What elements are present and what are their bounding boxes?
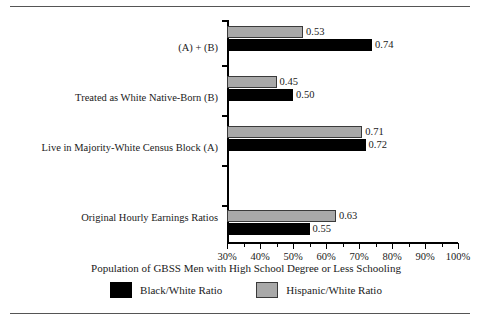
x-axis-tick-major: [392, 243, 393, 249]
bar-value-hispanic-original-ratios: 0.63: [339, 210, 357, 222]
x-axis-tick-major: [260, 243, 261, 249]
y-axis-tick: [222, 115, 227, 117]
figure-container: (A) + (B) Treated as White Native-Born (…: [0, 0, 492, 324]
top-horizontal-rule: [10, 6, 470, 7]
bar-value-black-treated-white: 0.50: [296, 89, 314, 101]
bar-hispanic-original-ratios: [227, 210, 336, 222]
legend-swatch-gray-icon: [256, 282, 278, 298]
x-axis-tick-major: [425, 243, 426, 249]
y-axis-tick: [222, 205, 227, 207]
x-axis-label-50: 50%: [283, 251, 302, 262]
x-axis-title: Population of GBSS Men with High School …: [0, 262, 492, 274]
x-axis-label-60: 60%: [316, 251, 335, 262]
bar-value-black-a-plus-b: 0.74: [375, 39, 393, 51]
y-axis-tick: [222, 20, 227, 22]
x-axis-label-30: 30%: [217, 251, 236, 262]
x-axis-tick-major: [227, 243, 228, 249]
bar-black-a-plus-b: [227, 39, 372, 51]
bar-black-majority-white: [227, 139, 366, 151]
x-axis-tick-major: [359, 243, 360, 249]
bar-value-hispanic-majority-white: 0.71: [365, 126, 383, 138]
legend-item-hispanic-white-ratio: Hispanic/White Ratio: [256, 282, 382, 298]
x-axis-label-80: 80%: [382, 251, 401, 262]
x-axis-label-90: 90%: [415, 251, 434, 262]
x-axis-tick-major: [293, 243, 294, 249]
x-axis-tick-minor: [409, 243, 410, 247]
bar-black-original-ratios: [227, 223, 310, 235]
bar-black-treated-white: [227, 89, 293, 101]
bar-hispanic-majority-white: [227, 126, 362, 138]
bar-hispanic-treated-white: [227, 76, 277, 88]
x-axis-tick-minor: [277, 243, 278, 247]
chart-legend: Black/White Ratio Hispanic/White Ratio: [0, 282, 492, 298]
bottom-horizontal-rule: [10, 313, 470, 314]
category-label-original-ratios: Original Hourly Earnings Ratios: [81, 212, 218, 223]
category-label-a-plus-b: (A) + (B): [178, 42, 218, 53]
bar-hispanic-a-plus-b: [227, 26, 303, 38]
category-label-treated-white: Treated as White Native-Born (B): [75, 92, 218, 103]
x-axis-tick-minor: [343, 243, 344, 247]
category-label-majority-white: Live in Majority-White Census Block (A): [42, 142, 218, 153]
x-axis-tick-major: [458, 243, 459, 249]
bar-value-black-original-ratios: 0.55: [313, 223, 331, 235]
x-axis-label-100: 100%: [446, 251, 471, 262]
bar-value-black-majority-white: 0.72: [369, 139, 387, 151]
legend-label-hispanic-white-ratio: Hispanic/White Ratio: [286, 284, 382, 296]
x-axis-tick-minor: [244, 243, 245, 247]
x-axis-label-70: 70%: [349, 251, 368, 262]
x-axis-tick-minor: [442, 243, 443, 247]
bar-value-hispanic-a-plus-b: 0.53: [306, 26, 324, 38]
y-axis-tick: [222, 65, 227, 67]
category-axis-labels: (A) + (B) Treated as White Native-Born (…: [0, 20, 218, 242]
x-axis-tick-minor: [376, 243, 377, 247]
x-axis-label-40: 40%: [250, 251, 269, 262]
x-axis-tick-major: [326, 243, 327, 249]
y-axis-tick: [222, 165, 227, 167]
x-axis-tick-minor: [310, 243, 311, 247]
legend-swatch-black-icon: [110, 282, 132, 298]
plot-area: 0.53 0.74 0.45 0.50 0.71 0.72 0.63 0.55: [227, 20, 458, 242]
legend-label-black-white-ratio: Black/White Ratio: [140, 284, 222, 296]
bar-value-hispanic-treated-white: 0.45: [280, 76, 298, 88]
legend-item-black-white-ratio: Black/White Ratio: [110, 282, 222, 298]
